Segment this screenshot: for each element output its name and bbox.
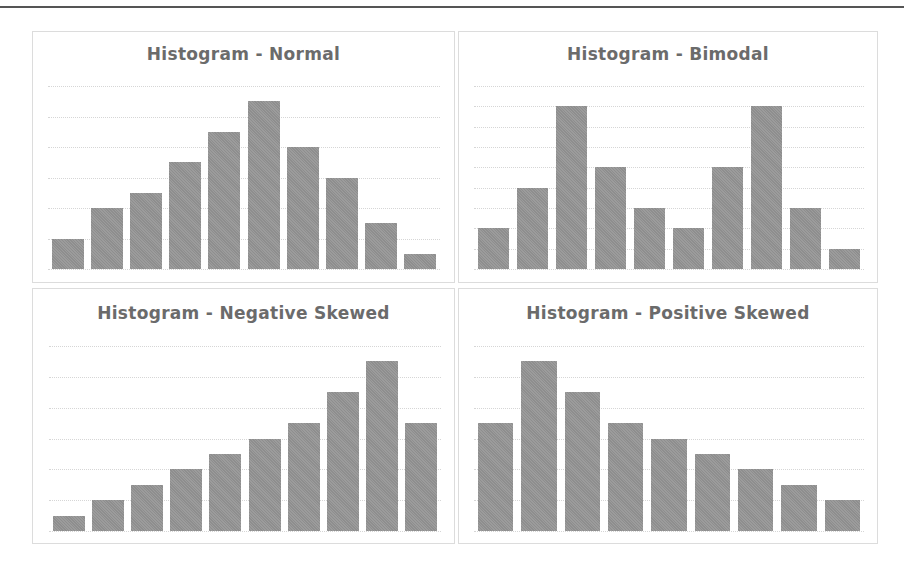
histogram-bar [478,423,514,531]
chart-panel-positive-skewed: Histogram - Positive Skewed [458,288,878,544]
histogram-bar [169,162,201,269]
gridline [474,167,864,168]
chart-panel-negative-skewed: Histogram - Negative Skewed [32,288,455,544]
histogram-bar [517,188,549,269]
plot-area [474,86,864,269]
histogram-bar [170,469,202,531]
gridline [474,106,864,107]
histogram-bar [829,249,861,269]
histogram-bar [790,208,822,269]
histogram-bar [404,254,436,269]
histogram-bar [92,500,124,531]
histogram-bar [608,423,644,531]
chart-panel-normal: Histogram - Normal [32,31,455,283]
gridline [474,346,864,347]
histogram-bar [91,208,123,269]
chart-title: Histogram - Normal [33,44,454,64]
histogram-bar [478,228,510,269]
gridline [48,178,440,179]
histogram-bar [673,228,705,269]
plot-area [49,346,441,531]
gridline [49,531,441,532]
histogram-bar [366,361,398,531]
histogram-bar [521,361,557,531]
histogram-bar [781,485,817,531]
histogram-bar [405,423,437,531]
histogram-bar [52,239,84,270]
histogram-bar [209,454,241,531]
gridline [474,86,864,87]
histogram-bar [365,223,397,269]
plot-area [474,346,864,531]
gridline [48,147,440,148]
histogram-bar [249,439,281,532]
histogram-bar [738,469,774,531]
histogram-bar [130,193,162,269]
plot-area [48,86,440,269]
gridline [48,117,440,118]
histogram-bar [287,147,319,269]
gridline [49,346,441,347]
histogram-bar [751,106,783,269]
histogram-bar [651,439,687,532]
histogram-bar [565,392,601,531]
gridline [474,147,864,148]
histogram-bar [131,485,163,531]
gridline [474,127,864,128]
histogram-bar [288,423,320,531]
chart-title: Histogram - Bimodal [459,44,877,64]
chart-title: Histogram - Negative Skewed [33,303,454,323]
histogram-bar [53,516,85,531]
gridline [474,531,864,532]
histogram-bar [825,500,861,531]
histogram-bar [208,132,240,269]
histogram-bar [695,454,731,531]
histogram-bar [556,106,588,269]
gridline [474,269,864,270]
histogram-bar [327,392,359,531]
histogram-bar [712,167,744,269]
gridline [48,269,440,270]
histogram-bar [634,208,666,269]
histogram-bar [248,101,280,269]
top-rule [0,6,904,8]
chart-title: Histogram - Positive Skewed [459,303,877,323]
histogram-bar [595,167,627,269]
gridline [48,86,440,87]
histogram-bar [326,178,358,270]
chart-panel-bimodal: Histogram - Bimodal [458,31,878,283]
